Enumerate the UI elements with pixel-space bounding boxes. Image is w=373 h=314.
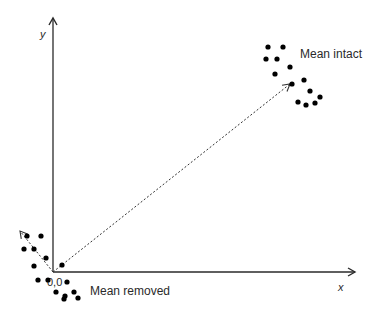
data-point (303, 102, 308, 107)
data-point (272, 71, 277, 76)
y-axis-label: y (39, 28, 47, 40)
diagram-canvas: y x 0,0 Mean intact Mean removed (0, 0, 373, 314)
data-point (317, 94, 322, 99)
data-point (287, 64, 292, 69)
data-point (64, 279, 69, 284)
data-point (274, 56, 279, 61)
mean-intact-vector (53, 84, 290, 272)
data-point (53, 289, 58, 294)
x-axis-label: x (337, 281, 344, 293)
data-point (31, 246, 36, 251)
mean-intact-label: Mean intact (300, 47, 363, 61)
data-point (280, 44, 285, 49)
data-point (21, 246, 26, 251)
data-point (301, 77, 306, 82)
data-point (59, 262, 64, 267)
data-point (35, 277, 40, 282)
data-point (43, 255, 48, 260)
data-point (75, 295, 80, 300)
mean-removed-label: Mean removed (90, 284, 170, 298)
data-point (45, 277, 50, 282)
data-point (289, 81, 294, 86)
data-point (24, 233, 29, 238)
data-point (31, 263, 36, 268)
data-point (295, 99, 300, 104)
data-point (307, 88, 312, 93)
data-point (71, 289, 76, 294)
data-point (312, 100, 317, 105)
data-point (265, 44, 270, 49)
data-point (38, 233, 43, 238)
data-point (61, 296, 66, 301)
data-point (263, 56, 268, 61)
